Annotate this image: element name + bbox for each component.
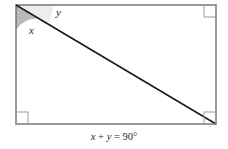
caption-value: 90°: [122, 131, 137, 142]
figure-caption: x + y = 90°: [0, 131, 228, 142]
geometry-figure: x y x + y = 90°: [0, 0, 228, 149]
caption-plus: +: [95, 131, 106, 142]
figure-canvas: [0, 0, 228, 149]
angle-label-y: y: [56, 7, 61, 18]
angle-label-x: x: [29, 25, 34, 36]
caption-equals: =: [111, 131, 122, 142]
